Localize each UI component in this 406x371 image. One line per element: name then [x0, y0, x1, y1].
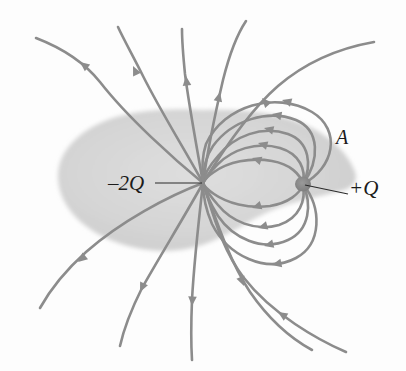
positive-charge-label: +Q	[349, 176, 378, 201]
electric-field-diagram: –2Q +Q A	[0, 0, 406, 371]
arrowhead-icon	[182, 76, 192, 86]
field-diagram-canvas	[0, 0, 406, 371]
arrowhead-icon	[188, 296, 197, 306]
arrowhead-icon	[136, 282, 148, 294]
positive-charge-dot	[295, 177, 311, 192]
negative-charge-label: –2Q	[108, 171, 144, 196]
gaussian-surface-label: A	[336, 126, 348, 149]
